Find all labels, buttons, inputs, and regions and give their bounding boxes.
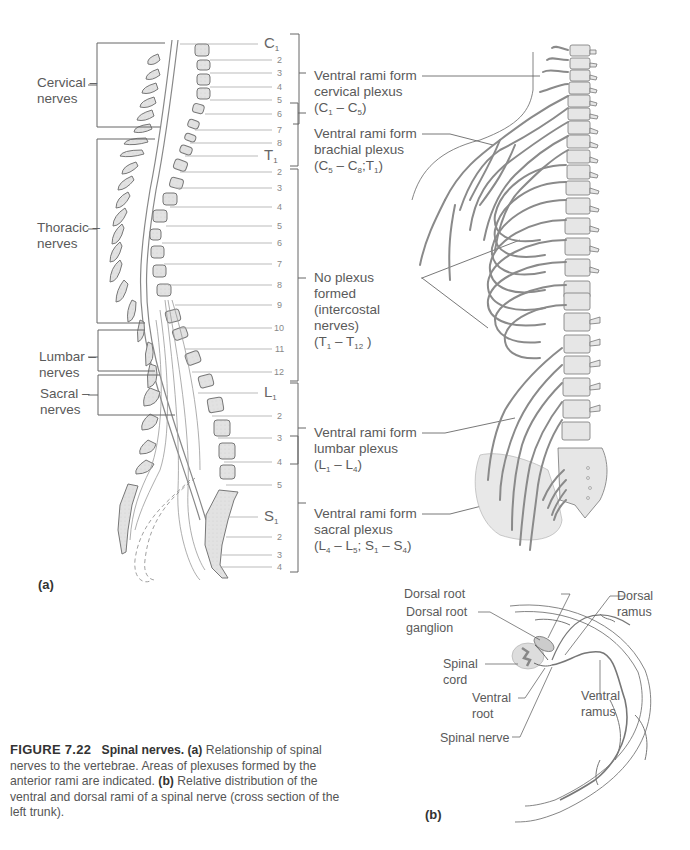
figure-title: Spinal nerves. (102, 743, 185, 757)
level-C1: C1 (264, 34, 279, 53)
plexus-label-lumbar: Ventral rami formlumbar plexus(L1 – L4) (314, 425, 417, 478)
plexus-leader-lines (421, 76, 545, 514)
level-T10: 10 (274, 323, 284, 333)
label-spinal-nerve: Spinal nerve (440, 730, 510, 746)
label-ventral-ramus: Ventralramus (581, 688, 620, 720)
level-L1: L1 (264, 383, 277, 402)
level-leader-lines (162, 44, 272, 567)
spine-lateral-view (110, 40, 238, 582)
level-T3: 3 (277, 183, 282, 193)
level-T12: 12 (274, 367, 284, 377)
level-C4: 4 (277, 82, 282, 92)
level-T6: 6 (277, 238, 282, 248)
level-T4: 4 (277, 202, 282, 212)
level-L3: 3 (277, 433, 282, 443)
level-T9: 9 (277, 300, 282, 310)
plexus-brackets-right (290, 34, 306, 572)
level-C5: 5 (277, 95, 282, 105)
level-T5: 5 (277, 221, 282, 231)
level-T2: 2 (277, 167, 282, 177)
level-C8: 8 (277, 138, 282, 148)
level-S3: 3 (277, 550, 282, 560)
plexus-label-sacral: Ventral rami formsacral plexus(L4 – L5; … (314, 506, 417, 559)
spine-anterior-view (412, 45, 607, 550)
level-L4: 4 (277, 457, 282, 467)
panel-b-label: (b) (425, 807, 442, 822)
group-label-thoracic: Thoracic –nerves (37, 220, 100, 252)
level-C2: 2 (277, 55, 282, 65)
level-T8: 8 (277, 280, 282, 290)
group-brackets-left (88, 43, 175, 415)
plexus-label-intercostal: No plexusformed(intercostalnerves)(T1 – … (314, 270, 380, 355)
panel-a-label: (a) (38, 577, 54, 592)
group-label-lumbar: Lumbar –nerves (39, 349, 96, 381)
level-T1: T1 (264, 146, 278, 165)
label-ventral-root: Ventralroot (472, 690, 511, 722)
label-dorsal-ramus: Dorsalramus (617, 588, 653, 620)
level-C6: 6 (277, 109, 282, 119)
level-L2: 2 (277, 411, 282, 421)
figure-number: FIGURE 7.22 (10, 742, 91, 757)
group-label-cervical: Cervical –nerves (37, 75, 97, 107)
label-spinal-cord: Spinalcord (443, 656, 478, 688)
level-T11: 11 (275, 344, 284, 354)
plexus-label-cervical: Ventral rami formcervical plexus(C1 – C5… (314, 68, 417, 121)
level-C3: 3 (277, 68, 282, 78)
level-S2: 2 (277, 532, 282, 542)
label-dorsal-root-ganglion: Dorsal rootganglion (406, 604, 467, 636)
group-label-sacral: Sacral –nerves (40, 386, 90, 418)
label-dorsal-root: Dorsal root (404, 586, 465, 602)
figure-caption: FIGURE 7.22 Spinal nerves. (a) Relations… (10, 742, 340, 821)
level-C7: 7 (277, 125, 282, 135)
level-S1: S1 (264, 507, 278, 526)
level-S4: 4 (277, 562, 282, 572)
level-T7: 7 (277, 259, 282, 269)
plexus-label-brachial: Ventral rami formbrachial plexus(C5 – C8… (314, 126, 417, 179)
level-L5: 5 (277, 480, 282, 490)
